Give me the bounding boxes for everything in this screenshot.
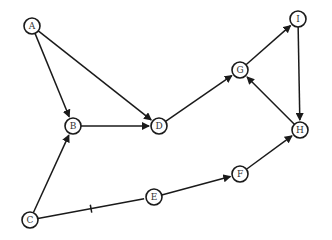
node-label: D — [155, 121, 162, 131]
node-e: E — [146, 189, 162, 205]
node-a: A — [24, 18, 40, 34]
node-label: F — [237, 169, 243, 179]
node-g: G — [232, 62, 248, 78]
nodes-layer: ABCDEFGHI — [22, 11, 308, 228]
directed-graph-diagram: ABCDEFGHI — [0, 0, 332, 240]
edge-h-g — [247, 77, 294, 124]
edge-e-f — [162, 177, 231, 195]
node-label: C — [27, 215, 34, 225]
edge-c-b — [33, 135, 69, 213]
node-label: I — [296, 14, 300, 24]
edge-tick-mark — [90, 205, 91, 213]
node-c: C — [22, 212, 38, 228]
node-f: F — [232, 166, 248, 182]
node-d: D — [151, 118, 167, 134]
node-label: B — [70, 121, 77, 131]
edge-f-h — [246, 136, 291, 169]
edge-a-d — [38, 31, 151, 120]
node-b: B — [65, 118, 81, 134]
node-label: E — [151, 192, 158, 202]
node-label: G — [236, 65, 243, 75]
edge-a-b — [35, 33, 69, 116]
edge-d-g — [166, 76, 232, 122]
edge-i-h — [298, 27, 300, 120]
node-label: H — [296, 125, 304, 135]
node-i: I — [290, 11, 306, 27]
edge-g-i — [246, 26, 290, 65]
node-label: A — [28, 21, 36, 31]
node-h: H — [292, 122, 308, 138]
